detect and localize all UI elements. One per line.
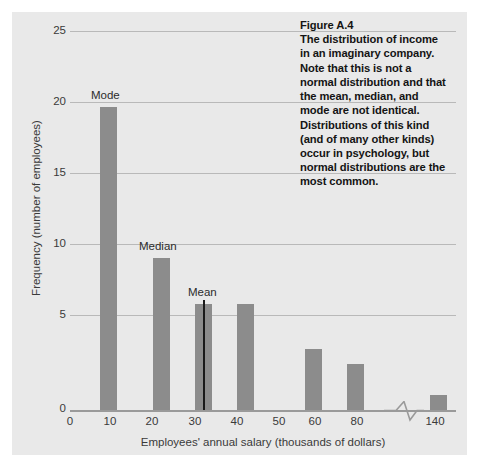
figure-panel: 25 20 15 10 5 0 Frequency (number of emp… [12,12,467,455]
bar-40 [237,304,254,410]
annotation-mean: Mean [188,287,217,299]
ytick-label-0: 0 [44,403,66,415]
axis-break-zigzag [384,401,424,423]
xtick-label-10: 10 [95,416,125,428]
ytick-label-20: 20 [44,96,66,108]
xtick-label-60: 60 [300,416,330,428]
figure-caption: Figure A.4 The distribution of income in… [300,18,450,189]
xtick-label-140: 140 [420,416,450,428]
xtick-label-40: 40 [222,416,252,428]
ytick-10: 10 [40,238,66,250]
annotation-median: Median [139,241,177,253]
ytick-label-25: 25 [44,25,66,37]
xtick-label-80: 80 [342,416,372,428]
ytick-15: 15 [40,167,66,179]
x-axis-title: Employees' annual salary (thousands of d… [70,436,456,448]
figure-caption-title: Figure A.4 [300,18,450,32]
xtick-label-0: 0 [55,416,85,428]
bar-80 [347,364,364,410]
ytick-20: 20 [40,96,66,108]
ytick-5: 5 [40,309,66,321]
gridline-5 [70,315,456,316]
ytick-25: 25 [40,25,66,37]
xtick-label-20: 20 [137,416,167,428]
xtick-label-30: 30 [180,416,210,428]
bar-140 [430,395,447,410]
xtick-label-50: 50 [264,416,294,428]
gridline-10 [70,244,456,245]
bar-20 [153,258,170,410]
ytick-label-5: 5 [44,309,66,321]
y-axis-title: Frequency (number of employees) [30,98,42,318]
ytick-label-10: 10 [44,238,66,250]
figure-caption-body: The distribution of income in an imagina… [300,32,450,188]
bar-60 [305,349,322,410]
ytick-0: 0 [40,403,66,415]
ytick-label-15: 15 [44,167,66,179]
bar-10 [100,107,117,410]
annotation-mode: Mode [91,90,120,102]
mean-marker-line [203,300,205,410]
